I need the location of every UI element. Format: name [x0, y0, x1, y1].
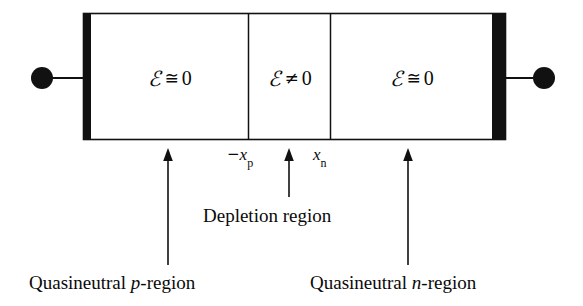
- tick-variable: x: [240, 145, 248, 164]
- left-contact-bar: [83, 13, 91, 140]
- tick-variable: x: [313, 145, 321, 164]
- depletion-region-field-expression: ℰ≠0: [249, 68, 331, 89]
- tick-label-xn: xn: [313, 146, 327, 166]
- depletion-region-caption: Depletion region: [203, 206, 331, 225]
- field-value: 0: [302, 67, 312, 89]
- caption-suffix: -region: [421, 272, 476, 293]
- depletion-region-caption-text: Depletion region: [203, 205, 331, 226]
- field-symbol-icon: ℰ: [268, 67, 281, 91]
- not-equal-icon: ≠: [281, 68, 301, 88]
- quasineutral-n-region-caption: Quasineutral n-region: [310, 273, 476, 292]
- caption-prefix: Quasineutral: [29, 272, 131, 293]
- field-value: 0: [182, 67, 192, 89]
- right-terminal-node: [533, 67, 555, 89]
- field-value: 0: [424, 67, 434, 89]
- left-terminal-node: [31, 67, 53, 89]
- caption-prefix: Quasineutral: [310, 272, 412, 293]
- right-contact-bar: [492, 13, 505, 140]
- n-region-leader-arrowhead: [403, 148, 413, 161]
- tick-subscript: n: [321, 156, 327, 170]
- field-symbol-icon: ℰ: [390, 67, 403, 91]
- caption-suffix: -region: [140, 272, 195, 293]
- depletion-leader-arrowhead: [284, 148, 294, 161]
- p-region-leader-arrowhead: [163, 148, 173, 161]
- approx-equal-icon: ≅: [161, 68, 181, 88]
- quasineutral-p-region-caption: Quasineutral p-region: [29, 273, 195, 292]
- pn-junction-diagram: ℰ≅0 ℰ≠0 ℰ≅0 −xp xn Depletion region Quas…: [0, 0, 583, 306]
- field-symbol-icon: ℰ: [148, 67, 161, 91]
- tick-subscript: p: [247, 156, 253, 170]
- diagram-vector-layer: [0, 0, 583, 306]
- n-region-field-expression: ℰ≅0: [331, 68, 493, 89]
- caption-italic-letter: n: [412, 272, 422, 293]
- caption-italic-letter: p: [131, 272, 141, 293]
- minus-sign-icon: −: [227, 145, 240, 163]
- approx-equal-icon: ≅: [403, 68, 423, 88]
- p-region-field-expression: ℰ≅0: [91, 68, 249, 89]
- tick-label-minus-xp: −xp: [227, 146, 253, 166]
